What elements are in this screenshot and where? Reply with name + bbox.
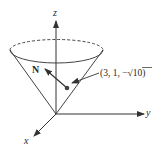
point-coordinate-label: (3, 1, −√10) xyxy=(100,68,152,80)
svg-text:(3, 1, −√10): (3, 1, −√10) xyxy=(100,68,145,79)
cone-diagram: z y x N (3, 1, −√10) xyxy=(0,0,166,151)
point-label-prefix: (3, 1, − xyxy=(100,68,128,79)
point-marker xyxy=(65,86,70,91)
x-axis-label: x xyxy=(23,135,29,146)
normal-label: N xyxy=(32,64,40,75)
x-axis xyxy=(34,114,56,136)
y-axis-label: y xyxy=(145,107,151,118)
point-label-suffix: ) xyxy=(142,68,145,79)
cone-side-left xyxy=(10,50,56,114)
point-label-radicand: 10 xyxy=(133,68,143,78)
cone-side-right xyxy=(56,50,103,114)
z-axis-label: z xyxy=(52,7,57,18)
